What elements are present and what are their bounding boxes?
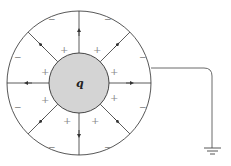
svg-text:−: − (48, 14, 56, 24)
svg-text:+: + (41, 94, 49, 105)
svg-text:−: − (139, 102, 147, 112)
svg-text:−: − (14, 102, 22, 112)
ground-icon (204, 148, 221, 154)
svg-text:+: + (60, 44, 68, 55)
svg-text:−: − (14, 52, 22, 62)
svg-text:−: − (104, 14, 112, 24)
svg-text:+: + (110, 92, 118, 103)
svg-text:+: + (63, 115, 71, 126)
charge-shell-diagram: q + + + + + + + + − − − − − − − − (0, 0, 231, 166)
svg-text:+: + (110, 66, 118, 77)
charge-label: q (76, 77, 84, 90)
svg-text:+: + (41, 66, 49, 77)
svg-text:−: − (139, 52, 147, 62)
diagram: q + + + + + + + + − − − − − − − − (0, 0, 231, 166)
svg-text:−: − (48, 142, 56, 152)
ground-wire (151, 68, 212, 148)
svg-text:−: − (104, 142, 112, 152)
svg-text:+: + (93, 44, 101, 55)
svg-text:+: + (91, 115, 99, 126)
inner-sphere: q (49, 53, 109, 113)
